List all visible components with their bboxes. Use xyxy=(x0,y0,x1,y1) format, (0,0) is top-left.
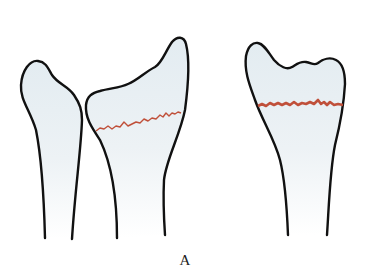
ulna-bone xyxy=(21,61,82,239)
figure-caption: A xyxy=(170,252,200,269)
radius-lateral-bone xyxy=(86,38,188,238)
radius-ap-bone xyxy=(246,43,345,235)
fracture-illustration xyxy=(0,0,382,279)
